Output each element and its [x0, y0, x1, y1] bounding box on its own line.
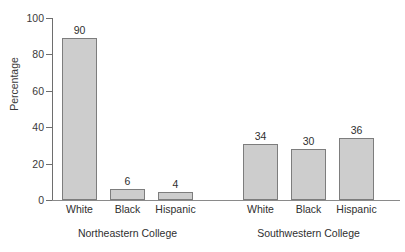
- y-axis-tick-label: 0: [0, 195, 44, 205]
- bar-value-label: 6: [100, 176, 155, 187]
- bar: [62, 38, 97, 200]
- group-label: Southwestern College: [229, 227, 389, 240]
- bar: [291, 149, 326, 200]
- bar-value-label: 34: [233, 131, 288, 142]
- x-axis-category-label: Hispanic: [145, 203, 206, 216]
- plot-area: Percentage 020406080100 90White6Black4Hi…: [0, 0, 405, 252]
- y-axis-tick: [46, 54, 52, 55]
- y-axis-tick: [46, 18, 52, 19]
- y-axis-tick: [46, 164, 52, 165]
- y-axis-tick-label: 20: [0, 159, 44, 169]
- bar-value-label: 4: [148, 179, 203, 190]
- bar: [110, 189, 145, 200]
- y-axis-tick-label: 40: [0, 122, 44, 132]
- y-axis-tick: [46, 91, 52, 92]
- bar: [158, 192, 193, 200]
- bar-value-label: 36: [329, 125, 384, 136]
- y-axis-tick-label: 60: [0, 86, 44, 96]
- bar-chart-figure: Percentage 020406080100 90White6Black4Hi…: [0, 0, 405, 252]
- x-axis-category-label: Hispanic: [326, 203, 387, 216]
- y-axis-tick: [46, 127, 52, 128]
- y-axis-tick-label: 100: [0, 13, 44, 23]
- bar-value-label: 30: [281, 136, 336, 147]
- bar-value-label: 90: [52, 25, 107, 36]
- y-axis-tick: [46, 200, 52, 201]
- bar: [243, 144, 278, 200]
- y-axis-spine: [52, 18, 53, 201]
- y-axis-tick-label: 80: [0, 49, 44, 59]
- x-axis-baseline: [52, 200, 400, 201]
- group-label: Northeastern College: [48, 227, 208, 240]
- bar: [339, 138, 374, 200]
